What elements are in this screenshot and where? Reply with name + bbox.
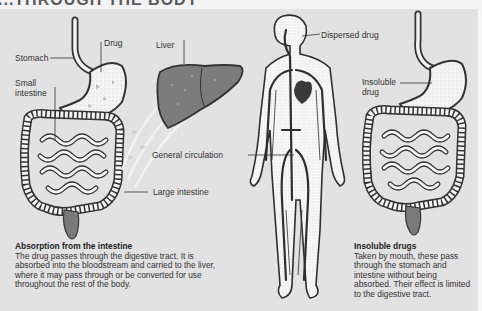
- liver: [157, 65, 242, 128]
- label-small-intestine-line2: intestine: [15, 88, 47, 98]
- label-dispersed-drug: Dispersed drug: [321, 30, 379, 40]
- caption-insoluble: Insoluble drugs Taken by mouth, these pa…: [354, 242, 474, 300]
- label-small-intestine-line1: Small: [15, 78, 36, 88]
- right-digestive-tract: [366, 14, 466, 235]
- label-insoluble-drug-line1: Insoluble: [362, 77, 396, 87]
- label-stomach: Stomach: [15, 53, 49, 63]
- caption-absorption-body: The drug passes through the digestive tr…: [15, 251, 215, 290]
- label-insoluble-drug-line2: drug: [362, 87, 379, 97]
- caption-insoluble-body: Taken by mouth, these pass through the s…: [354, 251, 470, 299]
- label-liver: Liver: [156, 40, 174, 50]
- human-body: [250, 15, 344, 298]
- label-large-intestine: Large intestine: [153, 187, 209, 197]
- label-general-circulation: General circulation: [152, 150, 223, 160]
- label-drug: Drug: [104, 38, 122, 48]
- caption-absorption: Absorption from the intestine The drug p…: [15, 242, 220, 290]
